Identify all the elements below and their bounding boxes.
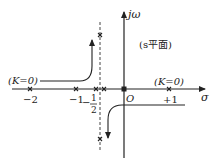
asymptote-label-num: 1: [91, 93, 97, 103]
imag-axis-label: jω: [125, 8, 140, 21]
tick-label-plus-1: +1: [163, 94, 178, 105]
origin-pole-mark: [122, 87, 127, 92]
locus-branch-upper: [40, 40, 92, 81]
asymptote-label-minus: −: [82, 97, 90, 108]
root-locus-diagram: jω σ O (s平面) −2 −1 +1 (K=0) (K=0) − 1 2: [0, 0, 213, 165]
tick-label-minus-2: −2: [23, 94, 38, 105]
locus-branch-lower: [108, 105, 185, 138]
asymptote-label: − 1 2: [82, 93, 97, 115]
annotation-k0-left: (K=0): [8, 75, 38, 86]
plane-label: (s平面): [139, 39, 172, 50]
asymptote-label-den: 2: [91, 105, 97, 115]
origin-label: O: [126, 93, 134, 104]
real-axis-label: σ: [201, 91, 209, 104]
annotation-k0-right: (K=0): [154, 76, 184, 87]
